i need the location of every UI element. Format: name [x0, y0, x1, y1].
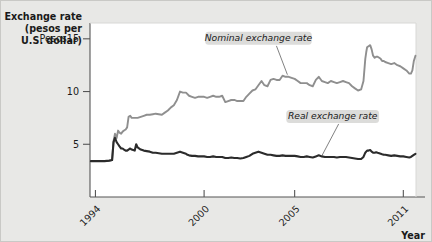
- x-tick-label-1994: 1994: [77, 203, 102, 228]
- exchange-rate-chart: 510Pesos15 1994200020052011 Nominal exch…: [1, 1, 432, 242]
- x-tick-label-2011: 2011: [385, 203, 410, 228]
- x-tick-label-2005: 2005: [277, 203, 302, 228]
- annotation-label-1: Real exchange rate: [288, 110, 378, 121]
- y-axis-title-line-2: (pesos per: [25, 23, 82, 34]
- x-tick-label-2000: 2000: [186, 203, 211, 228]
- y-axis-title-line-3: U.S. dollar): [21, 35, 82, 46]
- exchange-rate-figure: 510Pesos15 1994200020052011 Nominal exch…: [0, 0, 432, 242]
- y-tick-label-5: 5: [73, 139, 79, 150]
- y-axis-title-line-1: Exchange rate: [4, 11, 82, 22]
- x-axis-title: Year: [400, 230, 425, 241]
- y-axis-ticks: 510Pesos15: [40, 33, 90, 149]
- y-tick-label-10: 10: [67, 86, 79, 97]
- annotation-label-0: Nominal exchange rate: [205, 32, 313, 43]
